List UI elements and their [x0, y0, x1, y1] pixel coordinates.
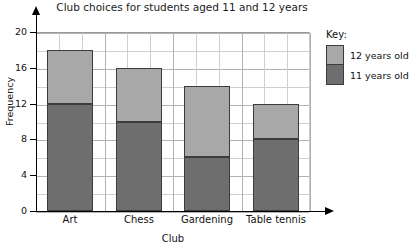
bar-segment-12-years[interactable] [184, 86, 230, 158]
legend-labels: 12 years old 11 years old [344, 45, 409, 85]
bar-stack[interactable] [47, 32, 93, 211]
y-axis-tick [30, 104, 36, 105]
x-axis-category-label: Table tennis [236, 214, 316, 225]
y-axis-tick [30, 139, 36, 140]
legend-swatch-12-years [326, 45, 344, 65]
bar-segment-11-years[interactable] [184, 157, 230, 211]
bar-stack[interactable] [184, 32, 230, 211]
bar-segment-11-years[interactable] [116, 122, 162, 212]
legend: Key: 12 years old 11 years old [326, 29, 398, 85]
legend-swatch-11-years [326, 65, 344, 85]
x-axis-category-label: Art [30, 214, 110, 225]
y-axis-tick-label: 20 [0, 26, 27, 37]
legend-item-12-years: 12 years old [344, 45, 409, 65]
x-axis-line [36, 211, 326, 212]
gridline-vertical [310, 33, 311, 211]
legend-item-11-years: 11 years old [344, 65, 409, 85]
y-axis-tick-label: 16 [0, 62, 27, 73]
gridline-vertical [173, 33, 174, 211]
bar-segment-12-years[interactable] [116, 68, 162, 122]
legend-title: Key: [326, 29, 398, 40]
x-axis-category-label: Gardening [167, 214, 247, 225]
y-axis-tick-label: 4 [0, 169, 27, 180]
y-axis-tick [30, 211, 36, 212]
legend-swatch-stack [326, 45, 344, 85]
y-axis-arrow-icon [32, 6, 40, 15]
chart-title: Club choices for students aged 11 and 12… [56, 1, 308, 14]
y-axis-tick-label: 0 [0, 205, 27, 216]
legend-label-11-years: 11 years old [350, 70, 409, 81]
gridline-vertical [105, 33, 106, 211]
y-axis-tick-label: 12 [0, 98, 27, 109]
bar-segment-11-years[interactable] [253, 139, 299, 211]
y-axis-line [36, 14, 37, 212]
y-axis-tick [30, 68, 36, 69]
bar-segment-12-years[interactable] [253, 104, 299, 140]
y-axis-tick [30, 175, 36, 176]
x-axis-arrow-icon [325, 207, 334, 215]
bar-stack[interactable] [253, 32, 299, 211]
gridline-horizontal [36, 212, 309, 213]
y-axis-tick [30, 32, 36, 33]
bar-segment-12-years[interactable] [47, 50, 93, 104]
legend-label-12-years: 12 years old [350, 50, 409, 61]
bar-segment-11-years[interactable] [47, 104, 93, 211]
x-axis-title: Club [36, 233, 310, 244]
bar-stack[interactable] [116, 32, 162, 211]
gridline-vertical [242, 33, 243, 211]
y-axis-tick-label: 8 [0, 133, 27, 144]
